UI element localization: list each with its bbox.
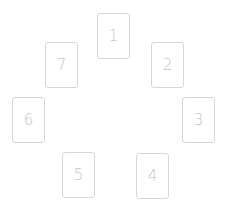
- card-6[interactable]: 6: [12, 97, 45, 143]
- card-label: 1: [109, 27, 119, 45]
- card-1[interactable]: 1: [97, 13, 130, 59]
- card-3[interactable]: 3: [182, 97, 215, 143]
- card-label: 2: [163, 56, 173, 74]
- card-7[interactable]: 7: [45, 42, 78, 88]
- card-label: 6: [24, 111, 34, 129]
- card-2[interactable]: 2: [151, 42, 184, 88]
- card-4[interactable]: 4: [136, 153, 169, 199]
- card-label: 7: [57, 56, 67, 74]
- card-5[interactable]: 5: [62, 152, 95, 198]
- card-label: 3: [194, 111, 204, 129]
- card-label: 4: [148, 167, 158, 185]
- card-label: 5: [74, 166, 84, 184]
